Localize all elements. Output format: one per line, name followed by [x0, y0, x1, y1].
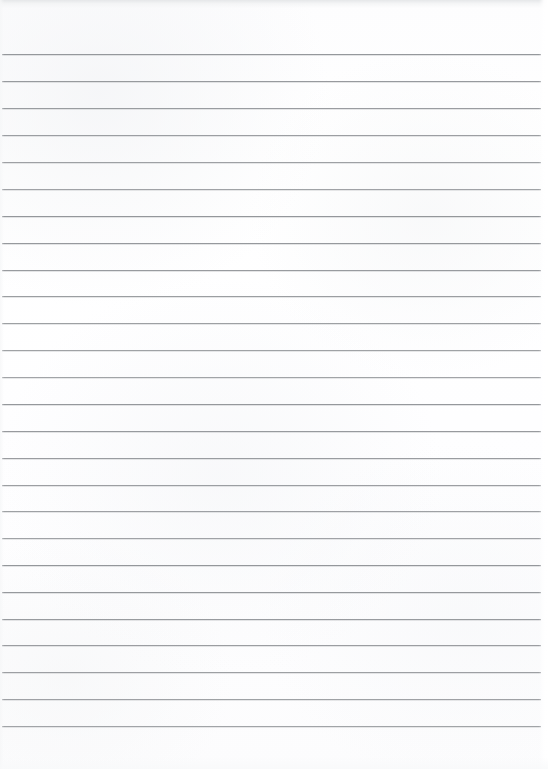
ruled-line — [2, 350, 541, 351]
ruled-line — [2, 511, 541, 512]
ruled-line — [2, 726, 541, 727]
ruled-line — [2, 162, 541, 163]
ruled-line — [2, 81, 541, 82]
ruled-line — [2, 431, 541, 432]
scan-left-edge-shading — [0, 0, 4, 769]
scanned-page — [0, 0, 548, 769]
ruled-line — [2, 323, 541, 324]
scan-right-edge-highlight — [539, 0, 548, 769]
ruled-line — [2, 672, 541, 673]
ruled-line — [2, 458, 541, 459]
ruled-line — [2, 189, 541, 190]
ruled-line — [2, 485, 541, 486]
ruled-line — [2, 699, 541, 700]
ruled-line — [2, 565, 541, 566]
scan-top-edge-shadow — [0, 0, 548, 8]
ruled-line — [2, 296, 541, 297]
ruled-line — [2, 377, 541, 378]
ruled-line — [2, 538, 541, 539]
ruled-line — [2, 645, 541, 646]
ruled-line — [2, 270, 541, 271]
ruled-line — [2, 108, 541, 109]
ruled-line — [2, 243, 541, 244]
ruled-line — [2, 54, 541, 55]
ruled-line — [2, 592, 541, 593]
ruled-line — [2, 404, 541, 405]
scan-bottom-edge-shading — [0, 757, 548, 769]
ruled-line — [2, 216, 541, 217]
ruled-line — [2, 619, 541, 620]
ruled-line — [2, 135, 541, 136]
ruled-lines-group — [0, 0, 548, 769]
